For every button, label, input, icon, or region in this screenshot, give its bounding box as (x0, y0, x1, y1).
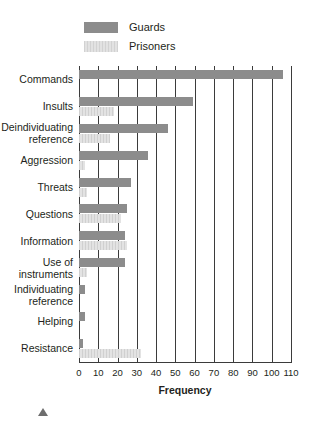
bar-guards (79, 285, 85, 294)
category-label-line: reference (29, 133, 73, 145)
legend-item-prisoners: Prisoners (84, 37, 284, 56)
bar-group (79, 93, 291, 120)
category-label-line: Aggression (20, 154, 73, 166)
legend-swatch-guards-icon (84, 22, 118, 33)
category-label: Deindividuatingreference (0, 120, 76, 147)
category-label-line: reference (29, 295, 73, 307)
bar-prisoners (79, 134, 110, 143)
x-axis-line (79, 362, 291, 363)
x-tick-label-50: 50 (170, 367, 181, 378)
category-label: Threats (0, 174, 76, 201)
gridline-110 (291, 66, 292, 363)
plot-area (79, 66, 291, 363)
triangle-up-icon (38, 408, 50, 418)
bar-guards (79, 178, 131, 187)
x-tick-label-90: 90 (247, 367, 258, 378)
x-tick-label-0: 0 (76, 367, 81, 378)
bar-prisoners (79, 268, 87, 277)
bar-prisoners (79, 161, 85, 170)
bar-guards (79, 124, 168, 133)
x-tick-label-60: 60 (189, 367, 200, 378)
x-tick-label-30: 30 (132, 367, 143, 378)
category-label-line: Commands (19, 73, 73, 85)
x-tick-label-70: 70 (209, 367, 220, 378)
x-tick-label-20: 20 (112, 367, 123, 378)
category-label: Helping (0, 308, 76, 335)
bar-prisoners (79, 241, 127, 250)
legend-label-guards: Guards (129, 22, 165, 33)
bar-guards (79, 97, 193, 106)
bar-guards (79, 258, 125, 267)
category-label-line: Use of (43, 256, 73, 268)
bar-prisoners (79, 107, 114, 116)
x-axis-title: Frequency (79, 384, 291, 396)
category-label: Aggression (0, 147, 76, 174)
bar-group (79, 174, 291, 201)
category-label-line: Insults (43, 100, 73, 112)
category-axis-labels: CommandsInsultsDeindividuatingreferenceA… (0, 66, 76, 362)
x-tick-label-100: 100 (264, 367, 280, 378)
category-label: Commands (0, 66, 76, 93)
category-label-line: Information (20, 235, 73, 247)
category-label-line: Resistance (21, 342, 73, 354)
bar-group (79, 308, 291, 335)
bar-group (79, 147, 291, 174)
category-label: Insults (0, 93, 76, 120)
legend-swatch-prisoners-icon (84, 41, 118, 52)
bar-group (79, 200, 291, 227)
bar-group (79, 281, 291, 308)
category-label: Use ofinstruments (0, 254, 76, 281)
x-axis-tick-labels: 0102030405060708090100110 (79, 367, 291, 381)
bar-guards (79, 312, 85, 321)
legend-label-prisoners: Prisoners (129, 41, 175, 52)
bar-prisoners (79, 349, 141, 358)
category-label: Individuatingreference (0, 281, 76, 308)
x-tick-label-40: 40 (151, 367, 162, 378)
bar-guards (79, 339, 83, 348)
category-label-line: Individuating (14, 283, 73, 295)
legend-item-guards: Guards (84, 18, 284, 37)
bar-group (79, 227, 291, 254)
bar-guards (79, 204, 127, 213)
category-label-line: Helping (37, 315, 73, 327)
bar-chart: CommandsInsultsDeindividuatingreferenceA… (0, 62, 321, 372)
category-label-line: Questions (26, 208, 73, 220)
x-tick-label-10: 10 (93, 367, 104, 378)
bar-guards (79, 231, 125, 240)
bar-guards (79, 151, 148, 160)
chart-legend: Guards Prisoners (84, 18, 284, 56)
category-label: Questions (0, 200, 76, 227)
bar-rows (79, 66, 291, 362)
bar-group (79, 120, 291, 147)
category-label: Information (0, 227, 76, 254)
bar-prisoners (79, 214, 121, 223)
bar-group (79, 254, 291, 281)
category-label-line: Threats (37, 181, 73, 193)
bar-prisoners (79, 188, 87, 197)
category-label-line: instruments (19, 268, 73, 280)
category-label-line: Deindividuating (1, 121, 73, 133)
bar-group (79, 66, 291, 93)
bar-group (79, 335, 291, 362)
x-tick-label-110: 110 (283, 367, 298, 378)
x-tick-label-80: 80 (228, 367, 239, 378)
bar-guards (79, 70, 283, 79)
category-label: Resistance (0, 335, 76, 362)
